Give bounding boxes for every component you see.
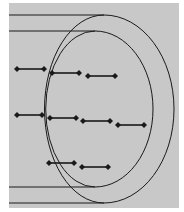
diagram-canvas: [0, 0, 184, 212]
gray-panel: [9, 3, 179, 208]
